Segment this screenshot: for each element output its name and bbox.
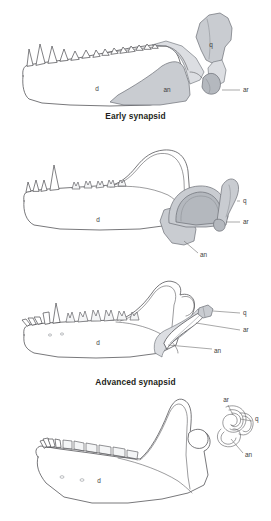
label-d-morgan: d bbox=[96, 339, 100, 346]
label-q-early: q bbox=[209, 41, 213, 49]
caption-early-synapsid: Early synapsid bbox=[0, 112, 271, 120]
label-an-early: an bbox=[163, 86, 171, 93]
label-ar-advsyn: ar bbox=[243, 218, 250, 225]
leader-q-morgan bbox=[213, 311, 240, 313]
label-d-advsyn: d bbox=[96, 216, 100, 223]
quadrate-shape bbox=[196, 13, 232, 64]
leader-an-morgan bbox=[168, 345, 212, 349]
morganucodon-drawing: d q ar an bbox=[0, 265, 271, 390]
panel-advanced-synapsid: d q ar an Advanced synapsid bbox=[0, 135, 271, 265]
label-d-early: d bbox=[95, 85, 99, 92]
panel-morganucodon: d q ar an Morganucodon bbox=[0, 265, 271, 390]
label-q-morgan: q bbox=[243, 309, 247, 317]
label-an-mammal: an bbox=[245, 451, 253, 458]
label-an-morgan: an bbox=[214, 347, 222, 354]
label-q-advsyn: q bbox=[243, 197, 247, 205]
label-ar-morgan: ar bbox=[243, 326, 250, 333]
advanced-mammal-drawing: d ar q an bbox=[0, 385, 271, 521]
mandibular-condyle bbox=[188, 429, 208, 448]
label-q-mammal: q bbox=[255, 415, 259, 423]
articular-process bbox=[214, 219, 226, 231]
label-ar-early: ar bbox=[243, 86, 250, 93]
jaw-evolution-figure: d an q ar Early synapsid bbox=[0, 0, 271, 521]
leader-ar-morgan bbox=[196, 323, 240, 330]
label-d-mammal: d bbox=[97, 477, 101, 484]
label-an-advsyn: an bbox=[200, 251, 208, 258]
quadrate-shape bbox=[198, 305, 213, 318]
ear-ossicles-cluster bbox=[217, 406, 253, 447]
leader-an-advsyn bbox=[184, 241, 198, 253]
panel-early-synapsid: d an q ar Early synapsid bbox=[0, 0, 271, 135]
advanced-synapsid-drawing: d q ar an bbox=[0, 135, 271, 265]
panel-advanced-mammal: d ar q an Advanced mammal bbox=[0, 385, 271, 521]
articular-shape bbox=[202, 73, 220, 94]
label-ar-mammal: ar bbox=[223, 396, 230, 403]
